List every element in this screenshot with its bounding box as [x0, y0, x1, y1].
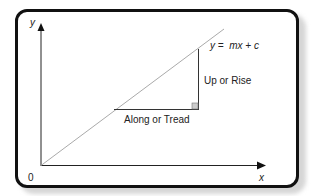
y-axis-arrow-icon [38, 23, 45, 31]
y-axis-label: y [30, 17, 35, 28]
run-label: Along or Tread [124, 114, 190, 125]
right-angle-marker-icon [192, 103, 198, 109]
origin-label: 0 [28, 172, 34, 183]
rise-label: Up or Rise [204, 75, 251, 86]
x-axis-label: x [259, 172, 264, 183]
diagram-canvas [0, 0, 312, 196]
x-axis-arrow-icon [257, 162, 266, 170]
line-y-mx-c [41, 29, 224, 166]
equation-label: y = mx + c [210, 40, 259, 51]
